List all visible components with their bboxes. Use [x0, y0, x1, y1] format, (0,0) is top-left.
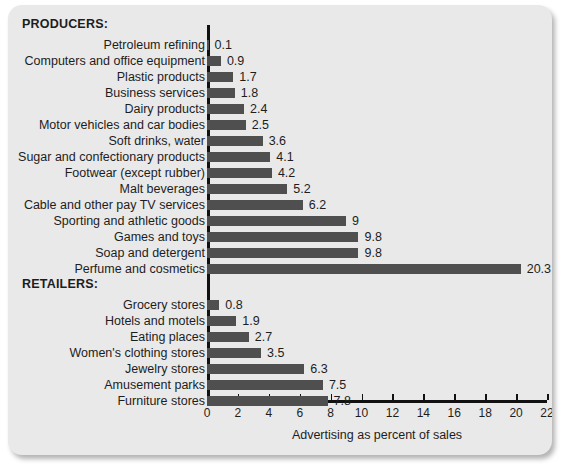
bar-value-label: 0.9: [227, 54, 244, 68]
bar-category-label: Perfume and cosmetics: [74, 262, 205, 276]
bar-category-label: Business services: [105, 86, 205, 100]
bar-category-label: Dairy products: [124, 102, 205, 116]
bar-category-label: Sporting and athletic goods: [54, 214, 206, 228]
bar-category-label: Soap and detergent: [95, 246, 205, 260]
bar: [207, 152, 270, 162]
bar: [207, 88, 235, 98]
bar: [207, 72, 233, 82]
bar: [207, 168, 272, 178]
bar-row: Grocery stores0.8: [207, 297, 547, 313]
bar-row: Cable and other pay TV services6.2: [207, 197, 547, 213]
bar-row: Soap and detergent9.8: [207, 245, 547, 261]
bar-row: Sugar and confectionary products4.1: [207, 149, 547, 165]
bar-value-label: 7.5: [329, 378, 346, 392]
bar-category-label: Motor vehicles and car bodies: [39, 118, 205, 132]
bar-category-label: Games and toys: [114, 230, 205, 244]
bar: [207, 136, 263, 146]
bar-value-label: 6.2: [309, 198, 326, 212]
bar-row: Eating places2.7: [207, 329, 547, 345]
bar-value-label: 4.1: [276, 150, 293, 164]
bar-row: Dairy products2.4: [207, 101, 547, 117]
bar-row: Petroleum refining0.1: [207, 37, 547, 53]
bar-value-label: 6.3: [310, 362, 327, 376]
bar-row: Computers and office equipment0.9: [207, 53, 547, 69]
bar-value-label: 0.8: [225, 298, 242, 312]
bar-category-label: Computers and office equipment: [25, 54, 205, 68]
bar-value-label: 3.5: [267, 346, 284, 360]
bar-value-label: 7.8: [334, 394, 351, 408]
bar-category-label: Malt beverages: [120, 182, 205, 196]
bar: [207, 232, 358, 242]
bar-row: Malt beverages5.2: [207, 181, 547, 197]
bar-category-label: Sugar and confectionary products: [18, 150, 205, 164]
bar: [207, 332, 249, 342]
bar-row: Business services1.8: [207, 85, 547, 101]
bar-category-label: Eating places: [130, 330, 205, 344]
bar: [207, 380, 323, 390]
group-heading-retailers: RETAILERS:: [22, 277, 98, 291]
bar-value-label: 2.4: [250, 102, 267, 116]
bar-row: Women's clothing stores3.5: [207, 345, 547, 361]
bar-value-label: 1.8: [241, 86, 258, 100]
bar-value-label: 5.2: [293, 182, 310, 196]
bar-category-label: Grocery stores: [123, 298, 205, 312]
bar-category-label: Hotels and motels: [105, 314, 205, 328]
chart-figure: PRODUCERS: RETAILERS: 024681012141618202…: [8, 5, 552, 455]
bar-row: Furniture stores7.8: [207, 393, 547, 409]
bar-value-label: 1.7: [239, 70, 256, 84]
bar-value-label: 2.7: [255, 330, 272, 344]
bar: [207, 396, 328, 406]
bar-category-label: Women's clothing stores: [69, 346, 205, 360]
bar: [207, 364, 304, 374]
bar-category-label: Jewelry stores: [125, 362, 205, 376]
bar: [207, 300, 219, 310]
bar-category-label: Plastic products: [117, 70, 205, 84]
bar: [207, 184, 287, 194]
bar-value-label: 20.3: [527, 262, 551, 276]
bar: [207, 104, 244, 114]
bar: [207, 264, 521, 274]
bar: [207, 200, 303, 210]
bar: [207, 120, 246, 130]
bar-row: Jewelry stores6.3: [207, 361, 547, 377]
bar-row: Soft drinks, water3.6: [207, 133, 547, 149]
bar-value-label: 9.8: [364, 246, 381, 260]
bar: [207, 40, 209, 50]
bar-value-label: 9.8: [364, 230, 381, 244]
bar-value-label: 4.2: [278, 166, 295, 180]
bar-value-label: 1.9: [242, 314, 259, 328]
bar-value-label: 3.6: [269, 134, 286, 148]
bar-row: Motor vehicles and car bodies2.5: [207, 117, 547, 133]
bar-row: Perfume and cosmetics20.3: [207, 261, 547, 277]
x-axis-tick: [547, 394, 549, 400]
bar-row: Amusement parks7.5: [207, 377, 547, 393]
bar-category-label: Furniture stores: [117, 394, 205, 408]
bar: [207, 348, 261, 358]
bar-row: Hotels and motels1.9: [207, 313, 547, 329]
bar: [207, 248, 358, 258]
bar-row: Games and toys9.8: [207, 229, 547, 245]
plot-area: 0246810121416182022 Petroleum refining0.…: [207, 25, 552, 410]
bar-category-label: Soft drinks, water: [108, 134, 205, 148]
x-axis-title: Advertising as percent of sales: [207, 428, 547, 442]
bar-category-label: Cable and other pay TV services: [24, 198, 205, 212]
bar: [207, 56, 221, 66]
bar-category-label: Amusement parks: [104, 378, 205, 392]
bar-value-label: 9: [352, 214, 359, 228]
group-heading-producers: PRODUCERS:: [22, 17, 108, 31]
bar-value-label: 0.1: [215, 38, 232, 52]
bar-row: Footwear (except rubber)4.2: [207, 165, 547, 181]
bar: [207, 216, 346, 226]
bar: [207, 316, 236, 326]
bar-row: Plastic products1.7: [207, 69, 547, 85]
bar-value-label: 2.5: [252, 118, 269, 132]
bar-row: Sporting and athletic goods9: [207, 213, 547, 229]
bar-category-label: Petroleum refining: [104, 38, 205, 52]
bar-category-label: Footwear (except rubber): [65, 166, 205, 180]
